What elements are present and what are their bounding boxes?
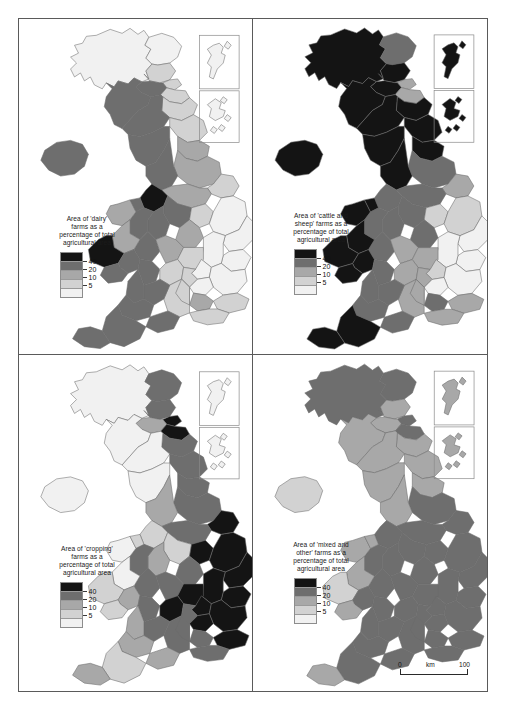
region-highland <box>71 28 152 88</box>
region-grampian <box>145 33 182 65</box>
map-cattle-and-sheep <box>253 19 487 354</box>
region-grampian <box>379 33 416 65</box>
region-northern-ireland <box>275 140 323 176</box>
region-northumberland <box>404 451 442 479</box>
panel-dairy: Area of 'dairy' farms as a percentage of… <box>19 19 253 355</box>
region-shetland <box>442 377 466 415</box>
uk-choropleth-svg-dairy <box>19 19 252 354</box>
region-northern-ireland <box>41 477 89 513</box>
region-northumberland <box>170 451 208 479</box>
scale-left-label: 0 <box>398 661 402 668</box>
region-sussex <box>190 645 230 661</box>
uk-choropleth-svg-cropping <box>19 355 252 691</box>
panel-mixed-and-other: Area of 'mixed and other' farms as a per… <box>253 355 487 691</box>
region-sussex <box>190 309 230 325</box>
region-orkney <box>207 97 231 134</box>
region-surrey <box>424 630 448 648</box>
region-northumberland <box>404 114 442 142</box>
region-orkney <box>442 97 466 134</box>
map-cropping <box>19 355 252 691</box>
region-grampian <box>379 369 416 401</box>
region-layer <box>275 28 487 349</box>
scale-right-label: 100 <box>459 661 470 668</box>
panel-cropping: Area of 'cropping' farms as a percentage… <box>19 355 253 691</box>
region-surrey <box>190 293 214 311</box>
region-layer <box>275 364 487 686</box>
region-northern-ireland <box>275 477 323 513</box>
region-sussex <box>424 646 464 662</box>
scale-bar-rule <box>400 669 468 675</box>
panel-cattle-and-sheep: Area of 'cattle and sheep' farms as a pe… <box>253 19 487 355</box>
scale-bar: 0 km 100 <box>397 661 471 675</box>
region-layer <box>41 365 252 685</box>
region-surrey <box>424 293 448 311</box>
region-shetland <box>442 41 466 79</box>
region-layer <box>41 28 252 348</box>
region-northern-ireland <box>41 140 89 176</box>
region-surrey <box>190 630 214 648</box>
region-orkney <box>442 433 466 470</box>
map-mixed-and-other <box>253 355 487 691</box>
figure-frame: Area of 'dairy' farms as a percentage of… <box>18 18 488 692</box>
scale-unit-label: km <box>426 661 435 668</box>
uk-choropleth-svg-cattle-and-sheep <box>253 19 487 354</box>
uk-choropleth-svg-mixed-and-other <box>253 355 487 691</box>
region-orkney <box>207 433 231 470</box>
region-shetland <box>207 378 231 416</box>
region-highland <box>305 364 387 425</box>
scale-bar-labels: 0 km 100 <box>397 661 471 669</box>
region-sussex <box>424 309 464 325</box>
map-dairy <box>19 19 252 354</box>
region-northumberland <box>170 115 208 143</box>
region-grampian <box>145 370 182 402</box>
region-highland <box>71 365 152 425</box>
region-highland <box>305 28 387 89</box>
region-shetland <box>207 41 231 79</box>
